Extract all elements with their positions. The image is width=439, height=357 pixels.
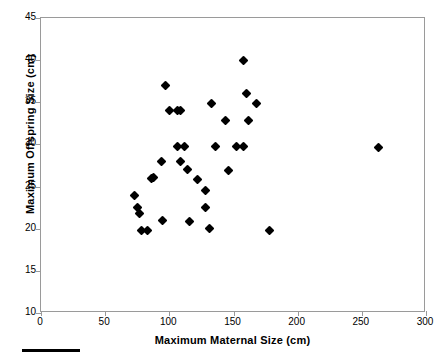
- x-tick-label: 100: [148, 317, 188, 327]
- y-tick-mark: [36, 271, 41, 272]
- x-axis-title: Maximum Maternal Size (cm): [40, 334, 425, 346]
- data-point: [193, 175, 203, 185]
- data-point: [221, 116, 231, 126]
- data-point: [143, 225, 153, 235]
- data-point: [374, 143, 384, 153]
- data-point: [244, 116, 254, 126]
- x-tick-label: 0: [20, 317, 60, 327]
- x-tick-label: 250: [341, 317, 381, 327]
- y-tick-label: 15: [10, 265, 36, 275]
- data-point: [161, 80, 171, 90]
- y-tick-label: 10: [10, 307, 36, 317]
- plot-area: [40, 17, 425, 312]
- data-point: [239, 141, 249, 151]
- y-tick-mark: [36, 102, 41, 103]
- x-axis-tick-labels: 050100150200250300: [40, 317, 425, 331]
- data-point: [157, 156, 167, 166]
- x-tick-label: 300: [405, 317, 439, 327]
- data-point: [182, 165, 192, 175]
- data-point: [204, 224, 214, 234]
- y-tick-mark: [36, 144, 41, 145]
- data-point: [241, 89, 251, 99]
- y-tick-mark: [36, 229, 41, 230]
- data-point: [223, 166, 233, 176]
- data-point: [207, 98, 217, 108]
- y-tick-mark: [36, 187, 41, 188]
- x-tick-label: 200: [277, 317, 317, 327]
- y-tick-mark: [36, 18, 41, 19]
- data-point: [264, 225, 274, 235]
- data-point: [158, 215, 168, 225]
- y-tick-mark: [36, 60, 41, 61]
- caption-rule: [22, 349, 80, 352]
- data-point: [180, 141, 190, 151]
- x-tick-label: 50: [84, 317, 124, 327]
- x-tick-label: 150: [213, 317, 253, 327]
- data-point: [211, 141, 221, 151]
- y-axis-title: Maximum Offspring Size (cm): [24, 24, 36, 244]
- data-point: [130, 190, 140, 200]
- scatter-plot-figure: 1015202530354045 050100150200250300 Maxi…: [0, 0, 439, 357]
- data-point: [135, 209, 145, 219]
- data-point: [176, 156, 186, 166]
- data-point: [252, 99, 262, 109]
- data-point: [200, 186, 210, 196]
- y-tick-label: 45: [10, 12, 36, 22]
- data-point: [200, 203, 210, 213]
- data-point: [239, 55, 249, 65]
- data-point: [185, 217, 195, 227]
